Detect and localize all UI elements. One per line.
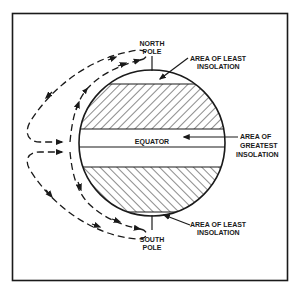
least-top-leader <box>160 58 188 79</box>
north-pole-label-line1: NORTH <box>140 40 165 47</box>
southern-arrow-mid-1 <box>46 190 52 197</box>
least-bottom-leader <box>164 215 190 225</box>
south-pole-label-line1: SOUTH <box>140 236 165 243</box>
greatest-label-line1: AREA OF <box>240 133 272 140</box>
least-bottom-label-line2: INSOLATION <box>197 229 240 236</box>
north-pole-label-line2: POLE <box>142 48 161 55</box>
earth-globe <box>70 84 240 212</box>
south-pole-label-line2: POLE <box>142 244 161 251</box>
insolation-diagram: NORTH POLE AREA OF LEAST INSOLATION EQUA… <box>0 0 296 290</box>
least-top-label-line1: AREA OF LEAST <box>190 55 247 62</box>
least-top-label-line2: INSOLATION <box>197 63 240 70</box>
greatest-label-line3: INSOLATION <box>236 151 279 158</box>
greatest-label-line2: GREATEST <box>240 142 278 149</box>
least-bottom-label-line1: AREA OF LEAST <box>190 221 247 228</box>
equator-label: EQUATOR <box>135 138 169 146</box>
